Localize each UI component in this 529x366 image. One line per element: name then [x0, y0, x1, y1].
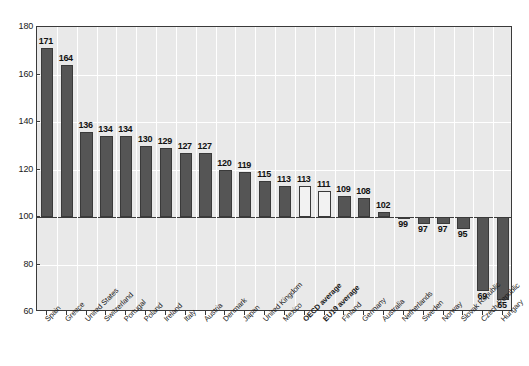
- gridline-vertical: [116, 27, 117, 310]
- gridline-vertical: [176, 27, 177, 310]
- bar: [437, 217, 449, 224]
- gridline-horizontal: [37, 265, 511, 266]
- gridline-vertical: [315, 27, 316, 310]
- gridline-vertical: [493, 27, 494, 310]
- y-tick-label: 100: [3, 211, 33, 221]
- gridline-vertical: [196, 27, 197, 310]
- bar: [318, 191, 330, 217]
- bar: [140, 146, 152, 217]
- y-tick-label: 160: [3, 69, 33, 79]
- gridline-vertical: [216, 27, 217, 310]
- gridline-vertical: [136, 27, 137, 310]
- bar-value-label: 102: [369, 200, 397, 210]
- bar: [180, 153, 192, 217]
- gridline-vertical: [454, 27, 455, 310]
- y-tick-mark: [36, 216, 40, 217]
- bar: [418, 217, 430, 224]
- bar: [477, 217, 489, 291]
- gridline-vertical: [473, 27, 474, 310]
- bar-value-label: 108: [349, 186, 377, 196]
- bar: [61, 65, 73, 217]
- bar: [299, 186, 311, 217]
- bar: [378, 212, 390, 217]
- y-tick-label: 140: [3, 116, 33, 126]
- gridline-vertical: [57, 27, 58, 310]
- bar-value-label: 171: [32, 36, 60, 46]
- y-tick-mark: [36, 264, 40, 265]
- bar: [160, 148, 172, 217]
- bar-value-label: 95: [449, 229, 477, 239]
- gridline-vertical: [394, 27, 395, 310]
- gridline-horizontal: [37, 122, 511, 123]
- bar: [120, 136, 132, 217]
- y-tick-mark: [36, 121, 40, 122]
- bar: [100, 136, 112, 217]
- gridline-horizontal: [37, 75, 511, 76]
- bar: [219, 170, 231, 218]
- bar: [80, 132, 92, 218]
- bar-chart: 6080100120140160180 17116413613413413012…: [0, 0, 529, 366]
- bar-value-label: 119: [230, 160, 258, 170]
- gridline-vertical: [354, 27, 355, 310]
- gridline-vertical: [77, 27, 78, 310]
- gridline-vertical: [156, 27, 157, 310]
- gridline-vertical: [414, 27, 415, 310]
- gridline-vertical: [295, 27, 296, 310]
- bar: [41, 48, 53, 217]
- bar-value-label: 127: [191, 141, 219, 151]
- bar-value-label: 134: [111, 124, 139, 134]
- gridline-vertical: [434, 27, 435, 310]
- y-tick-label: 180: [3, 21, 33, 31]
- gridline-vertical: [97, 27, 98, 310]
- y-tick-label: 120: [3, 164, 33, 174]
- x-axis-labels: SpainGreeceUnited StatesSwitzerlandPortu…: [0, 311, 529, 366]
- y-tick-label: 80: [3, 259, 33, 269]
- bar: [338, 196, 350, 217]
- bar-value-label: 164: [52, 53, 80, 63]
- bar: [279, 186, 291, 217]
- bar: [259, 181, 271, 217]
- bar: [457, 217, 469, 229]
- y-axis: 6080100120140160180: [0, 26, 33, 311]
- gridline-vertical: [335, 27, 336, 310]
- y-tick-mark: [36, 74, 40, 75]
- gridline-vertical: [374, 27, 375, 310]
- y-tick-mark: [36, 169, 40, 170]
